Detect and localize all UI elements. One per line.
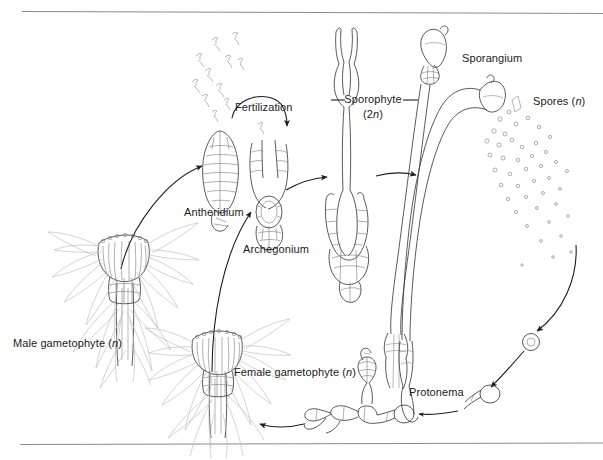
ploidy-suffix: ) <box>379 108 383 120</box>
spore-cloud <box>485 96 572 266</box>
label-sporophyte-text: Sporophyte <box>344 93 401 105</box>
young-sporophyte <box>325 28 368 302</box>
arrow-germination-to-protonema <box>491 351 524 387</box>
label-spores: Spores (n) <box>533 95 585 108</box>
archegonium <box>250 140 288 250</box>
mature-sporophyte <box>384 26 448 389</box>
label-spores-text: Spores ( <box>533 95 575 107</box>
ploidy-prefix: (2 <box>363 108 373 120</box>
arrow-archegonium-to-sporophyte <box>286 177 327 190</box>
male-gametophyte <box>48 223 199 388</box>
arrow-protonema-to-gametophyte <box>260 424 304 427</box>
label-female-gametophyte: Female gametophyte (n) <box>234 366 356 379</box>
label-male-gametophyte-text: Male gametophyte ( <box>13 337 112 349</box>
female-gametophyte <box>145 319 291 458</box>
diagram-drawing <box>0 0 603 460</box>
label-male-gametophyte-suffix: ) <box>118 337 122 349</box>
label-male-gametophyte: Male gametophyte (n) <box>13 337 122 350</box>
label-archegonium: Archegonium <box>243 243 309 256</box>
label-sporangium: Sporangium <box>462 52 522 65</box>
label-sporophyte-ploidy: (2n) <box>342 108 404 121</box>
germinating-spore <box>523 334 540 351</box>
label-female-gametophyte-text: Female gametophyte ( <box>234 366 346 378</box>
figure-rules <box>20 12 603 445</box>
moss-life-cycle-figure: Fertilization Sporophyte (2n) Sporangium… <box>0 0 603 460</box>
label-antheridium: Antheridium <box>184 206 244 219</box>
label-sporophyte: Sporophyte <box>342 93 404 106</box>
arrow-sporophyte-to-mature <box>376 173 416 176</box>
label-spores-suffix: ) <box>582 95 586 107</box>
label-fertilization: Fertilization <box>235 101 293 114</box>
arrow-female-to-archegonium <box>212 212 251 372</box>
sperm-cloud <box>192 32 264 134</box>
arrow-spores-to-germination <box>537 245 576 331</box>
label-female-gametophyte-suffix: ) <box>352 366 356 378</box>
label-protonema: Protonema <box>409 386 464 399</box>
